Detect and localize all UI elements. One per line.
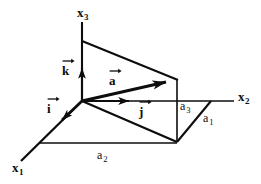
axis-label-x1-subscript: 1 <box>19 167 24 177</box>
component-label-a1-subscript: 1 <box>208 117 213 127</box>
vector-arrow-a <box>82 82 166 101</box>
vector-label-a: a <box>109 68 116 87</box>
vector-label-k-letter: k <box>62 64 69 77</box>
vector-label-i-letter: i <box>47 102 51 115</box>
component-label-a2: a2 <box>97 149 108 164</box>
vector-label-j-letter: j <box>139 105 143 118</box>
vector-label-j: j <box>139 99 143 118</box>
axis-label-x2-subscript: 2 <box>245 96 250 106</box>
vector-label-i: i <box>47 96 51 115</box>
vector-overbar-arrow-j <box>139 99 152 105</box>
vector-overbar-arrow-i <box>47 96 60 102</box>
vector-arrow-i <box>62 101 82 120</box>
axis-label-x1-letter: x <box>12 160 19 175</box>
vector-label-k: k <box>62 58 69 77</box>
component-label-a1: a1 <box>203 112 214 127</box>
vector-label-a-letter: a <box>109 74 116 87</box>
axis-label-x3-letter: x <box>77 5 84 20</box>
component-label-a2-subscript: 2 <box>102 154 107 164</box>
vector-overbar-arrow-k <box>62 58 75 64</box>
component-label-a3-subscript: 3 <box>185 105 190 115</box>
axis-label-x2-letter: x <box>238 89 245 104</box>
construction-line-top <box>82 41 178 80</box>
vector-overbar-arrow-a <box>109 68 122 74</box>
axis-label-x3: x3 <box>77 6 89 22</box>
axis-label-x1: x1 <box>12 161 24 177</box>
component-label-a3: a3 <box>180 100 191 115</box>
vector-diagram-figure: x3 x2 x1 a3 a1 a2 k a i <box>0 0 261 184</box>
construction-line-base-diagonal <box>82 101 177 142</box>
axis-label-x2: x2 <box>238 90 250 106</box>
diagram-canvas <box>0 0 261 184</box>
axis-label-x3-subscript: 3 <box>84 12 89 22</box>
